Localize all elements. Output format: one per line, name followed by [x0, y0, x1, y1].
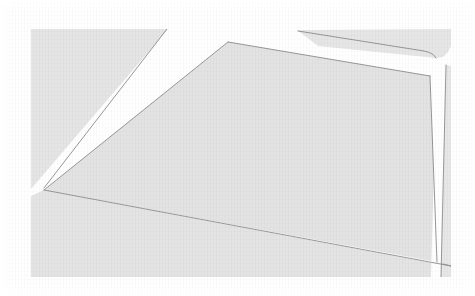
margin-right	[451, 0, 475, 296]
scanned-parcel-map	[0, 0, 475, 296]
margin-top	[0, 0, 475, 29]
map-canvas	[0, 0, 475, 296]
margin-bottom	[0, 277, 475, 296]
margin-left	[0, 0, 31, 296]
